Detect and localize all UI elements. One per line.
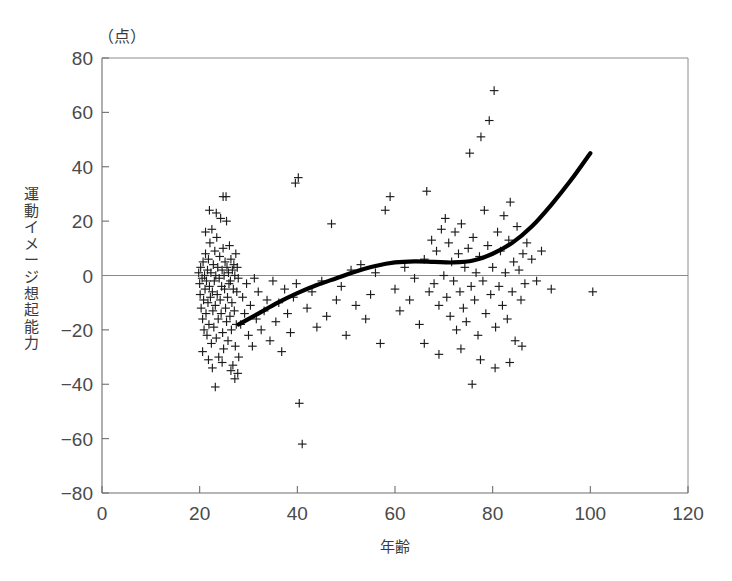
scatter-point [515,266,524,275]
scatter-point [547,285,556,294]
scatter-point [286,328,295,337]
scatter-point [295,399,304,408]
scatter-point [280,285,289,294]
scatter-point [391,285,400,294]
scatter-point [211,383,220,392]
scatter-point [198,347,207,356]
scatter-point [263,296,272,305]
scatter-point [197,304,206,313]
scatter-point [491,364,500,373]
scatter-point [480,206,489,215]
scatter-point [491,323,500,332]
regression-curve [239,153,591,324]
scatter-point [322,312,331,321]
scatter-point [248,342,257,351]
scatter-point [498,301,507,310]
scatter-point [221,304,230,313]
scatter-point [272,317,281,326]
scatter-point [464,244,473,253]
scatter-point [208,364,217,373]
y-tick-label: 20 [72,211,93,232]
chart-canvas: −80−60−40−20020406080020406080100120 （点）… [0,0,732,581]
scatter-point [511,336,520,345]
scatter-point [269,277,278,286]
scatter-point [488,263,497,272]
scatter-point [246,301,255,310]
scatter-point [457,220,466,229]
scatter-point [257,326,266,335]
scatter-point [452,326,461,335]
y-tick-label: 0 [82,266,93,287]
scatter-point [361,315,370,324]
scatter-point [352,301,361,310]
scatter-point [493,228,502,237]
scatter-point [442,293,451,302]
scatter-point [386,192,395,201]
scatter-point [425,288,434,297]
scatter-point [212,334,221,343]
scatter-point [462,317,471,326]
scatter-point [420,339,429,348]
scatter-point [381,206,390,215]
scatter-point [277,347,286,356]
scatter-point [519,249,528,258]
scatter-point [435,350,444,359]
scatter-point [435,301,444,310]
scatter-point [470,296,479,305]
scatter-point [440,271,449,280]
scatter-point [485,116,494,125]
scatter-point [490,86,499,95]
scatter-point [342,331,351,340]
scatter-point [422,187,431,196]
scatter-point [303,304,312,313]
scatter-point [244,331,253,340]
scatter-point [457,345,466,354]
scatter-point [527,255,536,264]
scatter-markers [194,86,597,448]
scatter-point [432,247,441,256]
scatter-point [537,247,546,256]
scatter-point [476,355,485,364]
scatter-point [396,307,405,316]
scatter-point [298,440,307,449]
x-axis-title: 年齢 [380,538,410,556]
scatter-point [461,263,470,272]
scatter-point [366,290,375,299]
x-tick-label: 120 [672,503,704,524]
scatter-point [444,239,453,248]
trend-curve [239,153,591,324]
scatter-point [456,288,465,297]
scatter-point [254,288,263,297]
scatter-point [506,198,515,207]
scatter-point [206,239,215,248]
scatter-point [234,353,243,362]
scatter-point [223,293,232,302]
scatter-point [505,358,514,367]
scatter-point [228,298,237,307]
scatter-point [238,293,247,302]
scatter-point [521,279,530,288]
scatter-point [523,239,532,248]
scatter-point [242,279,251,288]
scatter-point [240,309,249,318]
x-tick-label: 60 [384,503,405,524]
scatter-point [482,309,491,318]
y-tick-label: 40 [72,157,93,178]
scatter-point [513,222,522,231]
scatter-point [231,342,240,351]
scatter-point [376,339,385,348]
scatter-point [518,342,527,351]
scatter-point [467,282,476,291]
scatter-point [405,296,414,305]
scatter-point [224,336,233,345]
scatter-point [465,149,474,158]
scatter-point [230,307,239,316]
scatter-point [483,241,492,250]
scatter-point [430,279,439,288]
scatter-point [332,296,341,305]
x-tick-label: 100 [574,503,606,524]
axis-tick-labels: −80−60−40−20020406080020406080100120 [61,48,704,524]
scatter-point [218,328,227,337]
scatter-point [337,282,346,291]
scatter-point [266,336,275,345]
